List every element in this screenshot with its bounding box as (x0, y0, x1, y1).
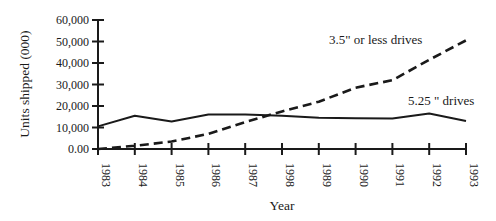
x-tick-label: 1990 (357, 163, 371, 187)
y-tick-label: 10,000 (56, 121, 89, 135)
x-tick-label: 1989 (320, 163, 334, 187)
x-tick-label: 1987 (246, 163, 260, 187)
line-chart: 0.0010,00020,00030,00040,00050,00060,000… (0, 0, 496, 221)
x-tick-label: 1998 (283, 163, 297, 187)
x-tick-label: 1991 (393, 163, 407, 187)
x-tick-label: 1984 (136, 163, 150, 187)
y-tick-label: 20,000 (56, 99, 89, 113)
x-tick-label: 1992 (430, 163, 444, 187)
series-line-5-25-inch (98, 114, 466, 127)
y-tick-label: 30,000 (56, 78, 89, 92)
y-tick-label: 50,000 (56, 35, 89, 49)
y-tick-label: 40,000 (56, 56, 89, 70)
x-tick-label: 1986 (209, 163, 223, 187)
y-axis-title: Units shipped (000) (17, 30, 32, 137)
y-tick-label: 60,000 (56, 13, 89, 27)
x-tick-label: 1983 (99, 163, 113, 187)
x-axis-title: Year (270, 198, 295, 213)
y-axis-ticks: 0.0010,00020,00030,00040,00050,00060,000 (56, 13, 104, 156)
x-tick-label: 1993 (467, 163, 481, 187)
y-tick-label: 0.00 (68, 142, 89, 156)
x-tick-label: 1985 (173, 163, 187, 187)
annotation-3-5-inch-drives: 3.5" or less drives (329, 32, 422, 47)
annotation-5-25-inch-drives: 5.25 " drives (408, 93, 474, 108)
